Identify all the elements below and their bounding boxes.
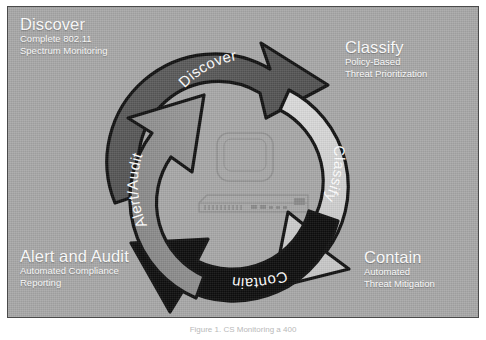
quadrant-label-alert-and-audit: Alert and Audit Automated Compliance Rep… [20,247,129,288]
quadrant-line1-alert-and-audit: Automated Compliance [20,265,129,277]
quadrant-title-alert-and-audit: Alert and Audit [20,247,129,265]
quadrant-title-contain: Contain [364,248,435,266]
quadrant-line1-classify: Policy-Based [345,56,427,68]
quadrant-line1-contain: Automated [364,266,435,278]
figure-root: Discover Classify Contain [0,0,486,340]
quadrant-line2-alert-and-audit: Reporting [20,277,129,289]
figure-caption: Figure 1. CS Monitoring a 400 [0,325,486,335]
quadrant-label-contain: Contain Automated Threat Mitigation [364,248,435,289]
quadrant-line2-discover: Spectrum Monitoring [20,45,108,57]
quadrant-label-classify: Classify Policy-Based Threat Prioritizat… [345,38,427,79]
quadrant-title-classify: Classify [345,38,427,56]
central-device-illustration [199,133,308,212]
quadrant-line2-classify: Threat Prioritization [345,68,427,80]
diagram-panel: Discover Classify Contain [7,6,479,318]
quadrant-line1-discover: Complete 802.11 [20,33,108,45]
quadrant-title-discover: Discover [20,15,108,33]
quadrant-line2-contain: Threat Mitigation [364,278,435,290]
quadrant-label-discover: Discover Complete 802.11 Spectrum Monito… [20,15,108,56]
